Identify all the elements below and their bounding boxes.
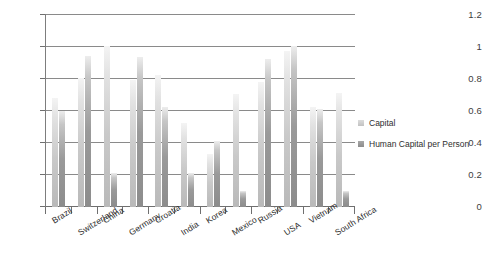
bar (59, 111, 65, 208)
bar (85, 56, 91, 207)
bar (258, 82, 264, 207)
legend-item-human-capital[interactable]: Human Capital per Person (358, 139, 482, 149)
bar-group (46, 14, 72, 207)
bar (104, 46, 110, 207)
x-tick-mark (148, 207, 149, 214)
bar-group (201, 14, 227, 207)
x-tick-mark (200, 207, 201, 214)
x-tick-mark (174, 207, 175, 214)
bar-group (72, 14, 98, 207)
bar (188, 173, 194, 207)
bar-group (304, 14, 330, 207)
bar (233, 94, 239, 207)
bar-groups (46, 14, 355, 207)
bar-group (175, 14, 201, 207)
bar-group (149, 14, 175, 207)
bar (240, 191, 246, 207)
x-tick-mark (225, 207, 226, 214)
y-tick-label: 1 (448, 41, 482, 52)
x-tick-mark (328, 207, 329, 214)
x-tick-mark (303, 207, 304, 214)
legend-label: Human Capital per Person (369, 139, 469, 149)
human-capital-swatch-icon (358, 141, 364, 147)
bar (207, 154, 213, 207)
bar (52, 98, 58, 207)
bar (310, 107, 316, 207)
capital-swatch-icon (358, 120, 364, 126)
bar (343, 191, 349, 207)
bar-group (252, 14, 278, 207)
y-tick-label: 0 (448, 201, 482, 212)
bar (162, 107, 168, 207)
legend-label: Capital (369, 118, 395, 128)
bar (336, 93, 342, 207)
bar (291, 46, 297, 207)
bar-group (123, 14, 149, 207)
x-tick-mark (277, 207, 278, 214)
x-tick-mark (122, 207, 123, 214)
plot-area (45, 14, 354, 207)
x-tick-mark (251, 207, 252, 214)
bar (317, 109, 323, 207)
x-axis-label: USA (282, 220, 302, 238)
x-axis-label: India (179, 219, 200, 238)
y-tick-label: 0.8 (448, 73, 482, 84)
bar (137, 57, 143, 207)
bar-group (329, 14, 355, 207)
legend-item-capital[interactable]: Capital (358, 118, 482, 128)
x-axis-label: Mexico (230, 214, 259, 237)
bar (130, 80, 136, 207)
x-tick-mark (354, 207, 355, 214)
x-tick-mark (71, 207, 72, 214)
bar (78, 78, 84, 207)
bar (181, 123, 187, 207)
x-tick-mark (97, 207, 98, 214)
bar-group (278, 14, 304, 207)
bar (284, 51, 290, 207)
y-tick-label: 0.2 (448, 169, 482, 180)
bar (155, 75, 161, 207)
bar-group (226, 14, 252, 207)
bar-group (98, 14, 124, 207)
y-tick-label: 0.6 (448, 105, 482, 116)
legend: Capital Human Capital per Person (358, 118, 482, 160)
y-tick-label: 1.2 (448, 9, 482, 20)
x-axis-ticks (45, 207, 354, 215)
bar (265, 59, 271, 207)
bar-chart: 1.2 1 0.8 0.6 0.4 0.2 0 BrazilSwitzerlan… (0, 0, 482, 278)
x-tick-mark (45, 207, 46, 214)
bar (111, 173, 117, 207)
bar (214, 141, 220, 207)
